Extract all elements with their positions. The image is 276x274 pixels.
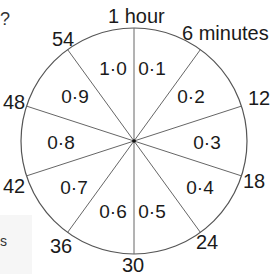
segment-0-1: 0·1 (138, 59, 165, 78)
segment-0-7: 0·7 (60, 178, 87, 197)
segment-0-5: 0·5 (138, 202, 165, 221)
segment-0-2: 0·2 (177, 87, 204, 106)
minute-label-24: 24 (196, 232, 218, 252)
minute-label-54: 54 (52, 29, 74, 49)
minute-label-36: 36 (50, 236, 72, 256)
spoke-line (27, 141, 135, 176)
segment-0-4: 0·4 (186, 178, 213, 197)
dial-center-dot (132, 139, 136, 143)
minute-label-30: 30 (122, 255, 144, 274)
minute-label-48: 48 (3, 92, 25, 112)
spoke-line (27, 106, 135, 141)
segment-0-6: 0·6 (99, 202, 126, 221)
label-six-minutes: 6 minutes (182, 23, 269, 43)
minute-label-18: 18 (243, 171, 265, 191)
edge-fragment-question: ? (0, 10, 10, 28)
spoke-line (134, 106, 242, 141)
minute-label-42: 42 (3, 176, 25, 196)
label-one-hour: 1 hour (108, 6, 165, 26)
hour-decimal-dial: 1 hour 6 minutes 12 18 24 30 36 42 48 54… (0, 0, 276, 274)
segment-0-8: 0·8 (47, 133, 74, 152)
edge-fragment-s: s (0, 234, 7, 248)
segment-0-3: 0·3 (193, 133, 220, 152)
spoke-line (134, 141, 242, 176)
segment-0-9: 0·9 (61, 87, 88, 106)
minute-label-12: 12 (248, 88, 270, 108)
segment-1-0: 1·0 (99, 59, 126, 78)
